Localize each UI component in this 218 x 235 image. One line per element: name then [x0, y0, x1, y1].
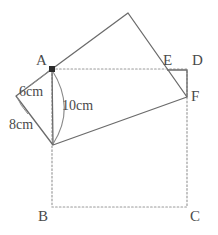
label-vertex-d: D: [192, 53, 203, 68]
label-vertex-a: A: [36, 53, 47, 68]
label-measure-8cm: 8cm: [9, 118, 33, 132]
rotated-rectangle: [52, 13, 187, 145]
label-measure-10cm: 10cm: [62, 99, 93, 113]
left-triangle: [16, 69, 53, 145]
label-vertex-b: B: [38, 209, 48, 224]
label-vertex-e: E: [163, 53, 172, 68]
label-vertex-f: F: [191, 89, 199, 104]
vertex-dot-a: [49, 66, 55, 72]
leader-6cm: [31, 70, 50, 85]
label-measure-6cm: 6cm: [19, 85, 43, 99]
geometry-figure: A B C D E F 6cm 8cm 10cm: [0, 0, 218, 235]
label-vertex-c: C: [190, 209, 200, 224]
